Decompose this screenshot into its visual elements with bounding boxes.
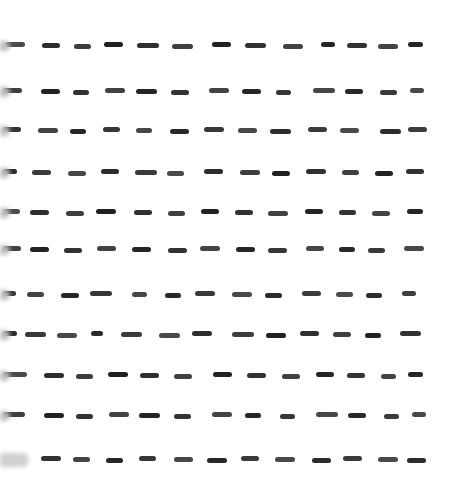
band bbox=[268, 248, 287, 253]
band bbox=[275, 457, 295, 462]
band bbox=[174, 414, 191, 419]
band bbox=[321, 42, 335, 47]
band bbox=[305, 209, 323, 214]
band-row-6 bbox=[0, 244, 457, 256]
band-row-1 bbox=[0, 40, 457, 52]
band bbox=[408, 42, 423, 47]
band bbox=[343, 456, 362, 461]
band-row-10 bbox=[0, 410, 457, 422]
band-row-8 bbox=[0, 329, 457, 341]
band bbox=[276, 90, 291, 95]
band bbox=[139, 413, 160, 418]
band bbox=[200, 246, 220, 251]
band bbox=[342, 170, 359, 175]
edge-smudge bbox=[0, 126, 10, 136]
band bbox=[400, 331, 421, 336]
band bbox=[204, 169, 223, 174]
band bbox=[236, 247, 255, 252]
band bbox=[171, 90, 189, 95]
band-row-2 bbox=[0, 86, 457, 98]
band bbox=[57, 333, 77, 338]
band bbox=[168, 211, 185, 216]
band bbox=[312, 458, 331, 463]
band bbox=[74, 44, 91, 49]
edge-smudge bbox=[0, 290, 10, 300]
edge-smudge bbox=[0, 453, 28, 467]
band bbox=[174, 374, 192, 379]
band bbox=[38, 128, 58, 133]
band bbox=[101, 169, 119, 174]
western-blot-image bbox=[0, 0, 457, 492]
band bbox=[165, 293, 181, 298]
band bbox=[408, 127, 427, 132]
band bbox=[381, 374, 396, 379]
band bbox=[106, 458, 123, 463]
band bbox=[282, 374, 300, 379]
band bbox=[268, 211, 288, 216]
band bbox=[73, 90, 89, 95]
band bbox=[245, 413, 261, 418]
band bbox=[64, 248, 82, 253]
band bbox=[365, 333, 381, 338]
band bbox=[212, 412, 232, 417]
edge-smudge bbox=[0, 371, 10, 381]
band bbox=[174, 457, 193, 462]
band bbox=[103, 127, 120, 132]
band bbox=[306, 246, 324, 251]
band bbox=[345, 89, 363, 94]
band bbox=[368, 248, 385, 253]
edge-smudge bbox=[0, 208, 10, 218]
band bbox=[238, 128, 257, 133]
band bbox=[159, 333, 180, 338]
band bbox=[96, 209, 116, 214]
band bbox=[407, 209, 423, 214]
band bbox=[347, 43, 367, 48]
band-row-3 bbox=[0, 125, 457, 137]
band bbox=[44, 373, 64, 378]
band bbox=[339, 210, 356, 215]
band bbox=[140, 373, 159, 378]
band bbox=[302, 291, 321, 296]
band bbox=[212, 42, 231, 47]
band bbox=[42, 43, 60, 48]
band bbox=[316, 412, 338, 417]
band bbox=[30, 210, 49, 215]
band bbox=[207, 458, 227, 463]
band bbox=[241, 456, 259, 461]
band bbox=[402, 291, 416, 296]
band bbox=[378, 44, 398, 49]
band bbox=[73, 457, 90, 462]
band bbox=[313, 88, 335, 93]
band bbox=[270, 129, 291, 134]
band bbox=[90, 291, 112, 296]
edge-smudge bbox=[0, 41, 10, 51]
band bbox=[132, 247, 151, 252]
band bbox=[108, 372, 128, 377]
band bbox=[232, 292, 252, 297]
band bbox=[135, 170, 157, 175]
band bbox=[410, 88, 424, 93]
band bbox=[240, 170, 260, 175]
band bbox=[336, 292, 353, 297]
band bbox=[121, 332, 142, 337]
band bbox=[41, 89, 60, 94]
band bbox=[308, 127, 327, 132]
band bbox=[25, 332, 46, 337]
edge-smudge bbox=[0, 87, 10, 97]
band bbox=[333, 332, 351, 337]
band bbox=[247, 373, 266, 378]
band bbox=[300, 331, 319, 336]
band bbox=[32, 170, 51, 175]
band bbox=[136, 89, 157, 94]
band-row-11 bbox=[0, 454, 457, 466]
band bbox=[340, 128, 359, 133]
band bbox=[139, 456, 156, 461]
band bbox=[266, 333, 286, 338]
band bbox=[306, 169, 326, 174]
band bbox=[27, 292, 44, 297]
band-row-9 bbox=[0, 370, 457, 382]
band bbox=[91, 331, 103, 336]
band bbox=[66, 211, 84, 216]
band bbox=[41, 456, 61, 461]
band bbox=[213, 372, 232, 377]
